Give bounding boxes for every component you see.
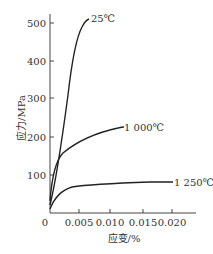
y-tick-200: 200	[27, 132, 46, 143]
x-tick-0.015: 0.015	[129, 217, 158, 228]
x-tick-0.020: 0.020	[158, 217, 187, 228]
curve-25c	[50, 19, 89, 205]
x-tick-0: 0	[42, 217, 48, 228]
y-tick-300: 300	[27, 93, 46, 104]
curve-1250c	[50, 182, 173, 209]
label-1250c: 1 250℃	[174, 177, 213, 188]
y-axis-label: 应力/MPa	[15, 95, 27, 141]
y-tick-500: 500	[27, 18, 46, 29]
y-ticks	[50, 23, 54, 175]
x-axis-label: 应变/%	[108, 232, 141, 244]
stress-strain-chart: 100 200 300 400 500 0 0.005 0.010 0.015 …	[0, 0, 213, 254]
x-ticks	[79, 209, 172, 213]
y-tick-400: 400	[27, 56, 46, 67]
curve-1000c	[50, 127, 124, 201]
label-1000c: 1 000℃	[124, 122, 164, 133]
label-25c: 25℃	[91, 13, 115, 24]
x-tick-0.005: 0.005	[65, 217, 94, 228]
x-tick-0.010: 0.010	[96, 217, 125, 228]
y-tick-100: 100	[27, 170, 46, 181]
